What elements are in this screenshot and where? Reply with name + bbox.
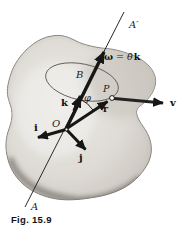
k-unit-symbol: k [134, 51, 141, 62]
origin-o-label: O [52, 118, 60, 129]
origin-o-marker [65, 128, 68, 131]
axis-label-a: A [30, 201, 38, 212]
j-vector-label: j [78, 152, 83, 163]
v-vector-label: v [169, 97, 177, 108]
point-p-label: P [102, 83, 110, 94]
k-vector-label: k [61, 97, 69, 108]
point-b-label: B [75, 69, 83, 80]
figure-caption: Fig. 15.9 [11, 214, 52, 225]
i-vector-label: i [34, 122, 38, 133]
rotation-about-fixed-axis-figure: A′ A ω = θ̇k B P O φ k r v i j Fig. 15.9 [0, 0, 184, 236]
point-p-marker [110, 96, 115, 101]
figure-canvas: A′ A ω = θ̇k B P O φ k r v i j Fig. 15.9 [0, 0, 184, 236]
axis-label-a-prime: A′ [128, 19, 139, 30]
omega-symbol: ω [104, 51, 113, 62]
omega-equation-label: ω = θ̇k [104, 51, 141, 62]
equals-sign: = [113, 51, 127, 62]
phi-label: φ [84, 92, 91, 103]
theta-dot-symbol: θ̇ [127, 51, 133, 62]
